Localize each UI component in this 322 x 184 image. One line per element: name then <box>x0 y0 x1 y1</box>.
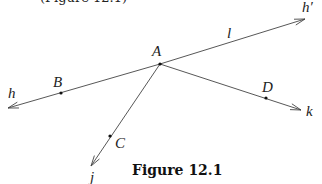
point-label-c: C <box>115 135 126 151</box>
ray-label-j: j <box>88 169 94 184</box>
ray-line <box>160 64 301 110</box>
labels-group: hh′kjABCDl <box>8 0 314 184</box>
ray-h <box>8 64 160 108</box>
ray-line <box>160 19 305 64</box>
ray-k <box>160 64 301 110</box>
line-label-l: l <box>227 25 231 41</box>
ray-label-h: h <box>8 85 16 101</box>
point-label-a: A <box>151 43 162 59</box>
ray-label-k: k <box>306 103 313 119</box>
point-c <box>108 134 111 137</box>
point-label-d: D <box>261 79 273 95</box>
points-group <box>59 62 267 137</box>
ray-j <box>91 64 160 166</box>
point-a <box>158 62 161 65</box>
geometry-figure: hh′kjABCDl <box>0 0 322 184</box>
rays-group <box>8 19 305 166</box>
ray-label-h-prime: h′ <box>302 0 314 15</box>
figure-caption: Figure 12.1 <box>132 162 222 178</box>
ray-line <box>91 64 160 166</box>
point-b <box>59 91 62 94</box>
point-label-b: B <box>53 74 62 90</box>
ray-h-prime <box>160 19 305 64</box>
point-d <box>264 96 267 99</box>
ray-line <box>8 64 160 108</box>
arrowhead-icon <box>91 156 99 166</box>
